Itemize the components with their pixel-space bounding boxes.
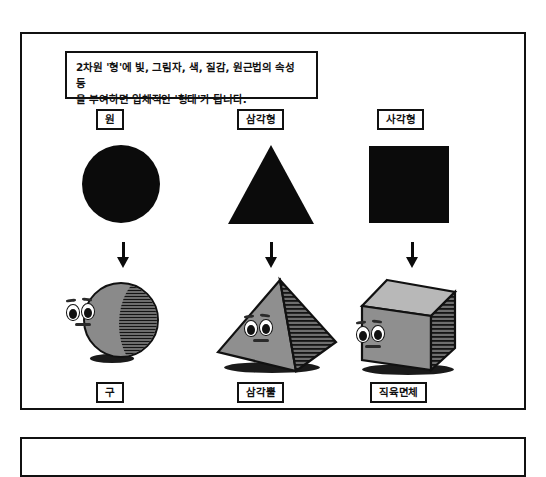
solid-shape-pyramid-wrap [202,274,352,382]
eyebrow-left [356,320,366,324]
arrow-head [117,257,129,268]
eye-right [371,325,385,342]
eyebrow-right [82,297,92,301]
pupil-right [374,330,382,340]
sphere-shading [119,282,159,358]
flat-circle-shape [82,145,160,223]
eyebrow-left [66,298,76,302]
solid-shape-sphere-wrap [50,274,200,382]
label-flat-circle: 원 [96,109,124,130]
arrow-head [406,257,418,268]
eye-right [81,303,95,320]
arrow-down-icon [264,242,278,268]
label-solid-sphere: 구 [96,382,124,403]
eyebrow-left [244,314,254,318]
eyebrow-right [260,313,270,317]
eyebrow-right [372,319,382,323]
label-flat-triangle: 삼각형 [237,109,284,130]
arrow-down-icon [405,242,419,268]
solid-shape-cuboid-wrap [340,274,490,382]
label-solid-pyramid: 삼각뿔 [237,382,284,403]
column-square: 사각형 [340,34,490,408]
label-solid-cuboid: 직육면체 [370,382,427,403]
arrow-down-icon [116,242,130,268]
pupil-right [262,324,270,334]
column-circle: 원 구 [50,34,200,408]
flat-triangle-shape [228,145,314,224]
pupil-right [84,308,92,318]
flat-shape-circle-wrap [50,141,200,233]
flat-shape-square-wrap [340,141,490,233]
cuboid-face-cartoon [356,320,396,350]
pupil-left [69,309,77,319]
column-triangle: 삼각형 [202,34,352,408]
eye-left [244,320,258,337]
mouth [75,323,91,326]
arrow-head [265,257,277,268]
flat-square-shape [369,146,449,223]
eye-left [356,326,370,343]
next-panel [20,437,526,477]
eye-left [66,304,80,321]
pupil-left [247,325,255,335]
flat-shape-triangle-wrap [202,141,352,233]
pyramid-face-cartoon [244,314,284,344]
pupil-left [359,331,367,341]
sphere-face [66,298,106,328]
mouth [365,345,381,348]
eye-right [259,319,273,336]
label-flat-square: 사각형 [377,109,424,130]
mouth [253,339,269,342]
main-illustration-panel: 2차원 '형'에 빛, 그림자, 색, 질감, 원근법의 속성 등 을 부여하면… [20,32,526,410]
